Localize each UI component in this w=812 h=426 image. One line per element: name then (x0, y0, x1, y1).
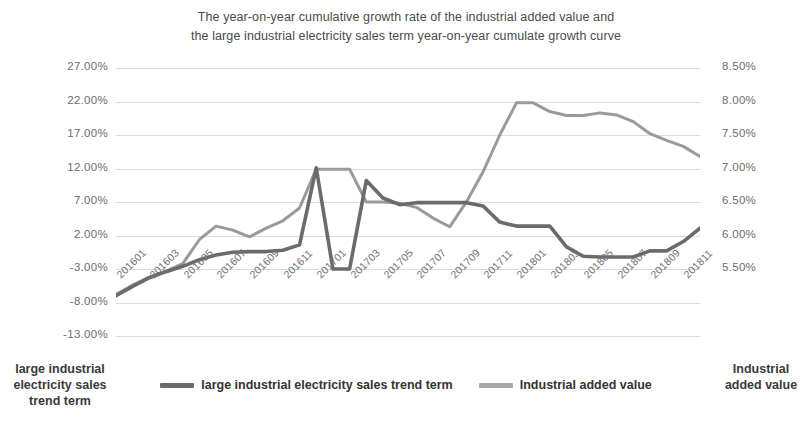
x-axis: 2016012016032016052016072016092016112017… (116, 272, 700, 342)
y-axis-left-tick: 12.00% (67, 161, 108, 173)
chart-title-line-2: the large industrial electricity sales t… (96, 27, 716, 46)
y-axis-right-tick: 7.50% (722, 127, 756, 139)
y-axis-right-tick: 8.50% (722, 60, 756, 72)
y-axis-right-tick: 6.00% (722, 228, 756, 240)
legend-swatch-icon (160, 383, 194, 388)
y-axis-right-tick: 6.50% (722, 194, 756, 206)
legend-swatch-icon (479, 383, 513, 388)
y-axis-left-tick: 27.00% (67, 60, 108, 72)
y-axis-left-tick: 7.00% (74, 194, 108, 206)
axis-title-left: large industrial electricity sales trend… (8, 361, 112, 409)
chart-title: The year-on-year cumulative growth rate … (96, 8, 716, 46)
y-axis-left-tick: -8.00% (70, 295, 108, 307)
y-axis-left-tick: 22.00% (67, 94, 108, 106)
chart-title-line-1: The year-on-year cumulative growth rate … (96, 8, 716, 27)
legend-label: Industrial added value (520, 378, 652, 392)
chart-legend: large industrial electricity sales trend… (126, 372, 686, 398)
legend-item[interactable]: large industrial electricity sales trend… (160, 378, 453, 392)
y-axis-left-tick: 17.00% (67, 127, 108, 139)
y-axis-right-tick: 8.00% (722, 94, 756, 106)
y-axis-right-tick: 7.00% (722, 161, 756, 173)
y-axis-left: 27.00%22.00%17.00%12.00%7.00%2.00%-3.00%… (42, 68, 108, 336)
legend-label: large industrial electricity sales trend… (201, 378, 453, 392)
y-axis-left-tick: 2.00% (74, 228, 108, 240)
chart-container: The year-on-year cumulative growth rate … (0, 0, 812, 426)
axis-title-right: Industrial added value (714, 361, 808, 393)
y-axis-left-tick: -3.00% (70, 261, 108, 273)
y-axis-right: 8.50%8.00%7.50%7.00%6.50%6.00%5.50% (722, 68, 802, 336)
y-axis-left-tick: -13.00% (63, 328, 108, 340)
legend-item[interactable]: Industrial added value (479, 378, 652, 392)
y-axis-right-tick: 5.50% (722, 261, 756, 273)
